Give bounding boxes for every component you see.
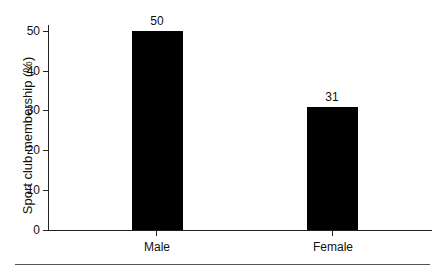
- bar-male: [132, 31, 183, 230]
- y-tick-label: 0: [10, 223, 40, 237]
- caption-divider: [15, 264, 430, 265]
- bar-value-label-male: 50: [127, 14, 187, 28]
- y-tick-label: 40: [10, 64, 40, 78]
- y-tick: [43, 71, 48, 72]
- y-tick-label: 10: [10, 183, 40, 197]
- y-tick: [43, 110, 48, 111]
- x-tick: [156, 231, 157, 236]
- y-tick-label: 30: [10, 103, 40, 117]
- y-axis-line: [48, 25, 49, 231]
- y-tick-label: 50: [10, 24, 40, 38]
- bar-female: [307, 107, 358, 230]
- y-tick-label: 20: [10, 143, 40, 157]
- y-tick: [43, 31, 48, 32]
- x-tick: [332, 231, 333, 236]
- y-tick: [43, 150, 48, 151]
- x-tick-label-female: Female: [293, 240, 373, 254]
- y-tick: [43, 190, 48, 191]
- bar-value-label-female: 31: [302, 90, 362, 104]
- x-axis-line: [43, 230, 432, 231]
- x-tick-label-male: Male: [117, 240, 197, 254]
- y-tick: [43, 230, 48, 231]
